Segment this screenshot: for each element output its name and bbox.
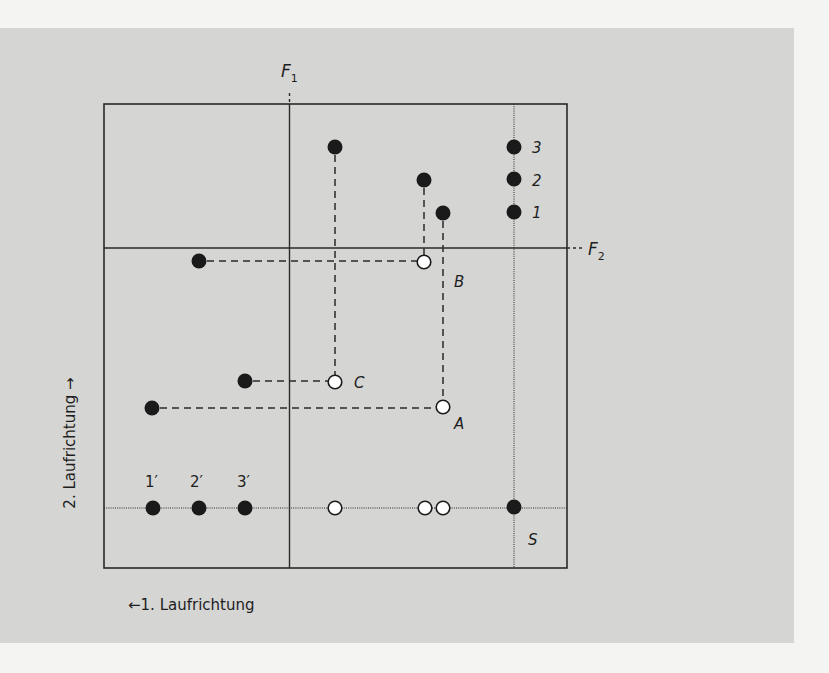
point-2-prime [192, 501, 207, 516]
point-a-second-direction [145, 401, 160, 416]
label-2: 2 [532, 172, 542, 190]
point-1-prime [146, 501, 161, 516]
point-a-open [436, 400, 450, 414]
point-b-first-direction [417, 173, 432, 188]
point-3 [507, 140, 522, 155]
label-c: C [354, 374, 365, 392]
label-b: B [454, 273, 464, 291]
label-3: 3 [532, 139, 542, 157]
point-2 [507, 172, 522, 187]
f2-label: F2 [588, 239, 605, 263]
point-c-projection [328, 501, 342, 515]
point-a-first-direction [436, 206, 451, 221]
label-3-prime: 3′ [237, 473, 251, 491]
label-a: A [453, 415, 464, 433]
label-2-prime: 2′ [190, 473, 204, 491]
filled-points [145, 140, 522, 516]
two-way-layout-diagram: F1 F2 3 2 1 1′ 2′ 3′ B C A S [0, 0, 829, 673]
point-c-second-direction [238, 374, 253, 389]
point-b-projection [418, 501, 432, 515]
point-c-open [328, 375, 342, 389]
point-b-open [417, 255, 431, 269]
label-1-prime: 1′ [145, 473, 159, 491]
point-b-second-direction [192, 254, 207, 269]
point-1 [507, 205, 522, 220]
projection-lines [160, 155, 443, 408]
point-c-first-direction [328, 140, 343, 155]
first-direction-label: ←1. Laufrichtung [128, 596, 255, 614]
point-3-prime [238, 501, 253, 516]
label-s: S [528, 531, 538, 549]
open-points [328, 255, 450, 515]
second-direction-label: 2. Laufrichtung → [61, 377, 79, 508]
label-1: 1 [532, 204, 542, 222]
point-a-projection [436, 501, 450, 515]
point-s [507, 500, 522, 515]
f1-label: F1 [281, 61, 298, 85]
